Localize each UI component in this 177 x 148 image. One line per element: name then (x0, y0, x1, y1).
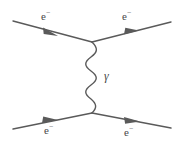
label-electron-incoming-top: e− (41, 11, 50, 22)
photon-propagator-wave (86, 42, 97, 113)
label-electron-outgoing-bottom: e− (124, 127, 133, 138)
charge-superscript-bottom-left: − (49, 122, 53, 131)
arrowhead-icon-bottom-right (124, 117, 140, 124)
label-electron-incoming-bottom: e− (44, 125, 53, 136)
label-photon-gamma: γ (104, 70, 109, 82)
incoming-electron-top-left-line (13, 21, 92, 42)
label-electron-outgoing-top: e− (122, 11, 131, 22)
charge-superscript-top-left: − (46, 8, 50, 17)
arrowhead-icon-top-right (124, 28, 139, 35)
fermion-line-top-left (13, 21, 92, 42)
feynman-diagram-canvas (0, 0, 177, 148)
outgoing-electron-top-right-line (92, 22, 171, 42)
charge-superscript-top-right: − (127, 8, 131, 17)
charge-superscript-bottom-right: − (129, 124, 133, 133)
feynman-diagram: e− e− e− e− γ (0, 0, 177, 148)
